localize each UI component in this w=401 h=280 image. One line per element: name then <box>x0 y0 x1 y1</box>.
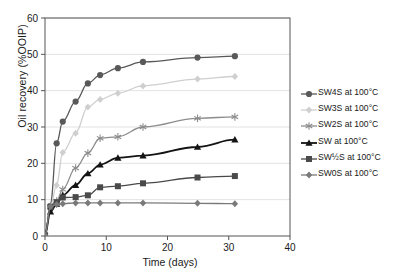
x-tick-label: 20 <box>162 242 174 253</box>
series-line <box>45 203 235 235</box>
legend-item-1[interactable]: SW3S at 100°C <box>300 100 401 116</box>
series-point <box>73 98 79 104</box>
series-point <box>195 175 201 181</box>
legend-marker <box>306 91 312 97</box>
series-point <box>140 82 146 89</box>
series-point <box>140 199 146 206</box>
x-axis-ticks: 010203040 <box>42 236 296 253</box>
y-tick-label: 30 <box>27 122 39 133</box>
legend-item-label: SW0S at 100°C <box>318 167 378 179</box>
x-tick-label: 30 <box>223 242 235 253</box>
y-tick-label: 60 <box>27 13 39 24</box>
y-tick-label: 0 <box>32 231 38 242</box>
chart-figure: Oil recovery (%OOIP) Time (days) 0102030… <box>0 0 401 280</box>
x-tick-label: 40 <box>284 242 296 253</box>
legend-item-label: SW½S at 100°C <box>318 151 381 163</box>
series-point <box>232 173 238 179</box>
legend-marker <box>306 172 312 179</box>
series-point <box>97 199 103 206</box>
y-tick-label: 10 <box>27 194 39 205</box>
legend-item-label: SW3S at 100°C <box>318 102 378 114</box>
diamond-marker-icon <box>300 167 318 179</box>
circle-marker-icon <box>300 86 318 98</box>
series-point <box>194 55 200 61</box>
series-point <box>140 180 146 186</box>
square-marker-icon <box>300 151 318 163</box>
series-point <box>53 182 59 189</box>
x-tick-label: 0 <box>42 242 48 253</box>
series-point <box>85 192 91 198</box>
series-point <box>194 200 200 207</box>
series-point <box>115 199 121 206</box>
legend-item-4[interactable]: SW½S at 100°C <box>300 149 401 165</box>
asterisk-marker-icon <box>300 118 318 130</box>
y-tick-label: 40 <box>27 85 39 96</box>
legend-marker <box>306 156 312 162</box>
y-tick-label: 50 <box>27 49 39 60</box>
series-point <box>60 194 66 200</box>
chart-legend: SW4S at 100°CSW3S at 100°CSW2S at 100°CS… <box>300 84 401 181</box>
series-point <box>140 59 146 65</box>
legend-item-2[interactable]: SW2S at 100°C <box>300 116 401 132</box>
legend-item-0[interactable]: SW4S at 100°C <box>300 84 401 100</box>
legend-item-3[interactable]: SW at 100°C <box>300 133 401 149</box>
series-point <box>115 65 121 71</box>
series-point <box>73 194 79 200</box>
series-point <box>72 199 78 206</box>
series-point <box>54 140 60 146</box>
legend-item-label: SW4S at 100°C <box>318 86 378 98</box>
legend-marker <box>306 107 312 114</box>
series-point <box>232 73 238 80</box>
legend-item-5[interactable]: SW0S at 100°C <box>300 165 401 181</box>
series-point <box>60 200 66 207</box>
series-point <box>60 118 66 124</box>
series-point <box>97 96 103 103</box>
grid-lines <box>45 18 290 200</box>
triangle-marker-icon <box>300 135 318 147</box>
diamond-marker-icon <box>300 102 318 114</box>
series-point <box>97 184 103 190</box>
y-axis-ticks: 0102030405060 <box>27 13 45 242</box>
series-point <box>85 149 92 157</box>
legend-item-label: SW2S at 100°C <box>318 118 378 130</box>
series-point <box>85 80 91 86</box>
series-point <box>97 72 103 78</box>
legend-item-label: SW at 100°C <box>318 135 368 147</box>
series-point <box>85 199 91 206</box>
series-point <box>232 200 238 207</box>
y-tick-label: 20 <box>27 158 39 169</box>
x-tick-label: 10 <box>101 242 113 253</box>
series-point <box>194 76 200 83</box>
series-point <box>232 53 238 59</box>
series-point <box>115 183 121 189</box>
data-series-layer <box>41 53 238 239</box>
